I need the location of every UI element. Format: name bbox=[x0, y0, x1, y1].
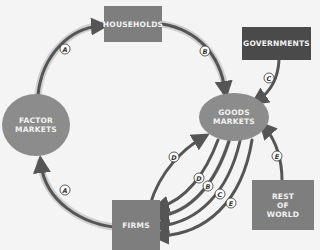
svg-text:B: B bbox=[206, 183, 211, 191]
flow-a-top bbox=[38, 26, 100, 95]
governments-box: GOVERNMENTS bbox=[242, 27, 311, 60]
svg-text:C: C bbox=[267, 75, 272, 83]
label-a-bottom: A bbox=[60, 185, 70, 195]
svg-text:E: E bbox=[229, 200, 234, 208]
svg-text:D: D bbox=[171, 154, 177, 162]
rest-of-world-label: REST OF WORLD bbox=[267, 192, 299, 219]
svg-text:C: C bbox=[218, 191, 223, 199]
svg-text:A: A bbox=[61, 46, 67, 54]
households-box: HOUSEHOLDS bbox=[104, 6, 162, 42]
svg-text:E: E bbox=[275, 153, 280, 161]
label-c-top: C bbox=[264, 73, 274, 83]
goods-markets-ellipse: GOODS MARKETS bbox=[199, 93, 269, 141]
svg-text:B: B bbox=[203, 48, 208, 56]
label-c-inner: C bbox=[215, 189, 225, 199]
label-a-top: A bbox=[60, 44, 70, 54]
households-label: HOUSEHOLDS bbox=[103, 20, 163, 29]
flow-d-outer bbox=[150, 138, 202, 205]
governments-label: GOVERNMENTS bbox=[243, 39, 310, 48]
flow-d-inner bbox=[160, 140, 218, 207]
factor-markets-label: FACTOR MARKETS bbox=[15, 116, 57, 134]
rest-of-world-box: REST OF WORLD bbox=[252, 180, 314, 230]
factor-markets-ellipse: FACTOR MARKETS bbox=[2, 94, 70, 156]
label-d-outer: D bbox=[169, 152, 179, 162]
label-e-row: E bbox=[272, 151, 282, 161]
firms-label: FIRMS bbox=[122, 221, 150, 230]
svg-text:A: A bbox=[61, 187, 67, 195]
label-e-inner: E bbox=[226, 198, 236, 208]
firms-box: FIRMS bbox=[112, 200, 160, 250]
flow-a-bottom bbox=[41, 164, 122, 228]
svg-text:D: D bbox=[196, 175, 202, 183]
label-d-inner: D bbox=[194, 173, 204, 183]
label-b-inner: B bbox=[203, 181, 213, 191]
label-b-top: B bbox=[200, 46, 210, 56]
goods-markets-label: GOODS MARKETS bbox=[213, 108, 255, 126]
